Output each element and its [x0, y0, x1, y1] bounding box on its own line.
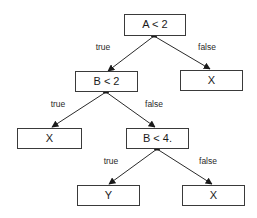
leaf-x-bottom-right: X	[183, 186, 245, 206]
edge-b2-false	[106, 92, 155, 127]
svg-text:X: X	[46, 132, 54, 144]
svg-text:B < 2: B < 2	[94, 75, 120, 87]
svg-text:X: X	[210, 189, 218, 201]
leaf-x-right: X	[181, 71, 243, 91]
node-a-lt-2: A < 2	[125, 15, 186, 36]
leaf-y: Y	[78, 186, 140, 206]
edge-label: true	[96, 42, 111, 52]
decision-tree-diagram: true false true false true false A < 2 B…	[0, 0, 257, 218]
edge-b4-false	[157, 149, 212, 184]
svg-text:X: X	[208, 74, 216, 86]
edge-label: false	[199, 156, 217, 166]
svg-text:B < 4.: B < 4.	[143, 132, 172, 144]
edge-a-true	[108, 36, 154, 71]
edge-label: true	[104, 156, 119, 166]
edge-b4-true	[109, 149, 157, 184]
svg-text:Y: Y	[105, 189, 113, 201]
node-b-lt-2: B < 2	[76, 72, 138, 92]
edge-b2-true	[52, 92, 106, 127]
edge-label: false	[198, 42, 216, 52]
leaf-x-left: X	[18, 129, 82, 149]
edge-label: true	[51, 99, 66, 109]
edge-label: false	[145, 99, 163, 109]
node-b-lt-4: B < 4.	[127, 129, 189, 149]
edge-a-false	[154, 36, 210, 69]
svg-text:A < 2: A < 2	[142, 18, 167, 30]
